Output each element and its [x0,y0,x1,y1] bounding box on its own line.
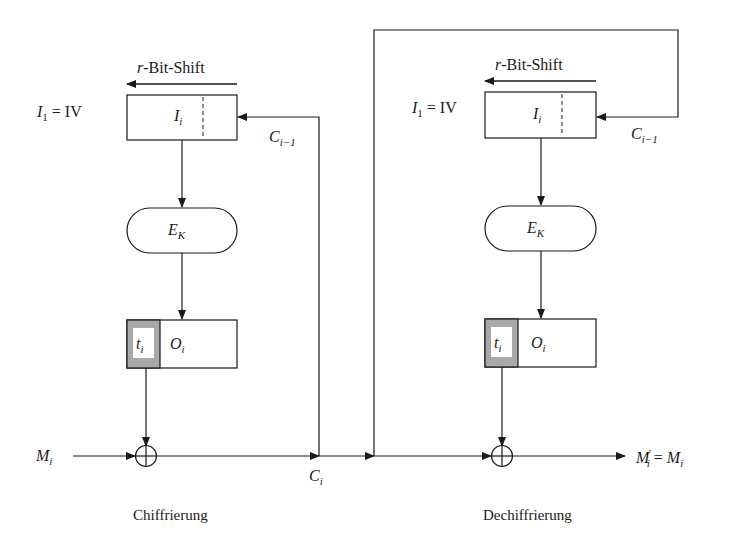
cipher-sub: K [537,227,544,239]
cfb-diagram [0,0,744,550]
t-label: ti [494,335,502,354]
cipher-var: E [168,221,178,238]
feedback-sub: i−1 [642,133,658,145]
o-label: Oi [531,335,546,354]
init-label: I1 = IV [412,100,457,119]
register-sub: i [179,115,182,127]
plaintext-eq: = [650,449,667,466]
shift-text: -Bit-Shift [143,59,204,76]
plaintext-var2: M [667,449,680,466]
register-label: Ii [174,108,182,127]
cipher-sub: K [178,229,185,241]
init-eq: = IV [423,99,457,116]
o-label: Oi [170,336,185,355]
plaintext-sub2: i [680,457,683,469]
feedback-sub: i−1 [280,136,296,148]
input-sub: i [49,455,52,467]
decryption-block [374,30,678,467]
register-label: Ii [533,106,541,125]
ciphertext-sub: i [320,475,323,487]
ciphertext-label: Ci [309,468,323,487]
feedback-label: Ci−1 [269,129,296,148]
cipher-label: EK [168,222,185,241]
o-var: O [531,334,543,351]
feedback-line [238,117,319,456]
shift-label: r-Bit-Shift [495,57,563,73]
register-sub: i [538,113,541,125]
o-var: O [170,335,182,352]
init-label: I1 = IV [37,104,82,123]
feedback-var: C [631,125,642,142]
shift-text: -Bit-Shift [501,56,562,73]
cipher-label: EK [527,220,544,239]
decryption-caption: Dechiffrierung [483,508,572,523]
input-var: M [36,447,49,464]
input-label: Mi [36,448,52,467]
ciphertext-var: C [309,467,320,484]
o-sub: i [182,343,185,355]
o-sub: i [543,342,546,354]
plaintext-label: M′i = Mi [636,448,683,469]
feedback-label: Ci−1 [631,126,658,145]
feedback-var: C [269,128,280,145]
t-sub: i [140,343,143,355]
t-sub: i [498,342,501,354]
t-label: ti [136,336,144,355]
encryption-caption: Chiffrierung [133,508,208,523]
init-eq: = IV [48,103,82,120]
shift-label: r-Bit-Shift [137,60,205,76]
cipher-var: E [527,219,537,236]
